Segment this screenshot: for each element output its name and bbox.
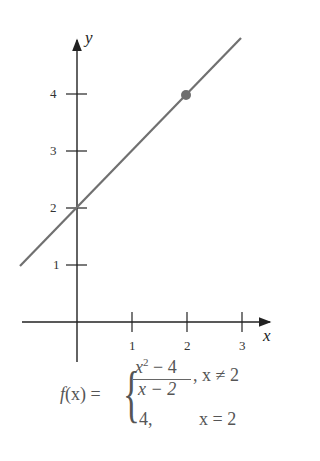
- case2-condition: x = 2: [199, 409, 236, 430]
- y-axis-label: y: [85, 28, 93, 48]
- case2-value: 4,: [139, 409, 153, 430]
- point-2-4: [181, 90, 191, 100]
- x-tick-label-3: 3: [239, 338, 246, 354]
- x-tick-label-1: 1: [129, 338, 136, 354]
- y-tick-label-1: 1: [53, 257, 60, 273]
- piecewise-formula: f(x) = { x2 − 4 x − 2 , x ≠ 2 4, x = 2: [56, 362, 286, 442]
- case1-denominator: x − 2: [138, 379, 176, 400]
- x-axis-label: x: [263, 326, 271, 346]
- case1-numerator: x2 − 4: [135, 356, 177, 378]
- formula-lhs: f(x) =: [60, 384, 101, 405]
- case1-condition: , x ≠ 2: [193, 365, 239, 386]
- y-tick-label-2: 2: [50, 200, 57, 216]
- x-tick-label-2: 2: [184, 338, 191, 354]
- y-tick-label-3: 3: [50, 143, 57, 159]
- y-tick-label-4: 4: [50, 86, 57, 102]
